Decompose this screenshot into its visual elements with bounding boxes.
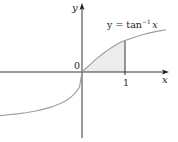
y-axis-label: y	[71, 2, 78, 13]
shaded-region	[82, 41, 125, 72]
function-label: y = tan−1x	[106, 18, 158, 30]
arctan-graph: y x 0 1 y = tan−1x	[0, 0, 178, 142]
origin-label: 0	[74, 60, 80, 71]
function-label-sup: −1	[142, 18, 151, 25]
tick-label-1: 1	[123, 77, 129, 88]
arctan-curve	[0, 30, 166, 116]
function-label-var: x	[152, 19, 158, 30]
x-axis-label: x	[162, 74, 168, 85]
function-label-prefix: y = tan	[106, 19, 142, 30]
